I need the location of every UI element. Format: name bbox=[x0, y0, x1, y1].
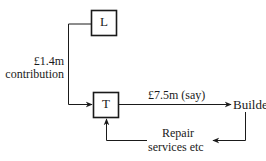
repair-text-line1: Repair bbox=[162, 127, 194, 140]
edge-repair-line-right bbox=[213, 112, 246, 141]
repair-text-line2: services etc bbox=[148, 141, 204, 154]
contribution-text: contribution bbox=[5, 68, 64, 81]
builder-label: Builder bbox=[233, 98, 266, 111]
node-L-label: L bbox=[91, 14, 117, 30]
payment-label: £7.5m (say) bbox=[148, 89, 205, 102]
edge-repair-line-left bbox=[107, 119, 148, 141]
node-T-label: T bbox=[93, 96, 119, 112]
edge-contribution-line bbox=[69, 24, 93, 105]
